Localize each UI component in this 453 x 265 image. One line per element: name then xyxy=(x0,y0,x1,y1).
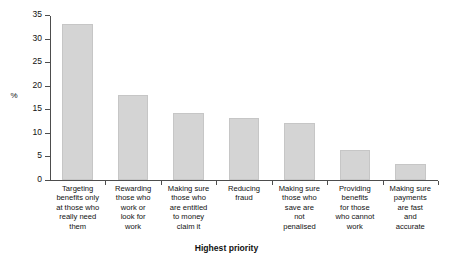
y-axis-tick-label: 5 xyxy=(37,151,42,160)
y-axis-tick: 25 xyxy=(45,62,50,63)
y-axis-tick: 15 xyxy=(45,109,50,110)
x-axis-title: Highest priority xyxy=(0,243,453,253)
bar xyxy=(229,118,259,180)
x-axis-category-label: Rewardingthose whowork orlook forwork xyxy=(105,184,160,231)
y-axis-line xyxy=(50,16,51,181)
y-axis-tick-label: 0 xyxy=(37,175,42,184)
x-axis-tick xyxy=(438,181,439,185)
plot-area: 05101520253035 xyxy=(50,16,438,181)
y-axis-tick: 35 xyxy=(45,15,50,16)
x-axis-category-label: Targetingbenefits onlyat those whoreally… xyxy=(50,184,105,231)
bar-chart-figure: % 05101520253035 Targetingbenefits onlya… xyxy=(0,0,453,265)
x-axis-category-label: Making surethose whosave arenotpenalised xyxy=(272,184,327,231)
bar xyxy=(340,150,370,180)
y-axis-tick: 10 xyxy=(45,133,50,134)
y-axis-tick-label: 20 xyxy=(33,81,42,90)
bar xyxy=(173,113,203,180)
bar xyxy=(118,95,148,180)
y-axis-tick-label: 25 xyxy=(33,57,42,66)
bar xyxy=(284,123,314,181)
y-axis-tick-label: 15 xyxy=(33,104,42,113)
bar xyxy=(62,24,92,180)
y-axis-label: % xyxy=(6,91,22,101)
x-axis-category-label: Reducingfraud xyxy=(216,184,271,203)
y-axis-tick: 0 xyxy=(45,180,50,181)
y-axis-tick-label: 10 xyxy=(33,128,42,137)
y-axis-tick-label: 30 xyxy=(33,34,42,43)
x-axis-category-label: Making surethose whoare entitledto money… xyxy=(161,184,216,231)
y-axis-tick: 5 xyxy=(45,156,50,157)
y-axis-tick-label: 35 xyxy=(33,10,42,19)
y-axis-tick: 30 xyxy=(45,39,50,40)
x-axis-category-label: Making surepaymentsare fastandaccurate xyxy=(383,184,438,231)
y-axis-tick: 20 xyxy=(45,86,50,87)
bar xyxy=(395,164,425,180)
x-axis-line xyxy=(50,180,438,181)
x-axis-category-label: Providingbenefitsfor thosewho cannotwork xyxy=(327,184,382,231)
x-axis-category-labels: Targetingbenefits onlyat those whoreally… xyxy=(50,184,438,246)
